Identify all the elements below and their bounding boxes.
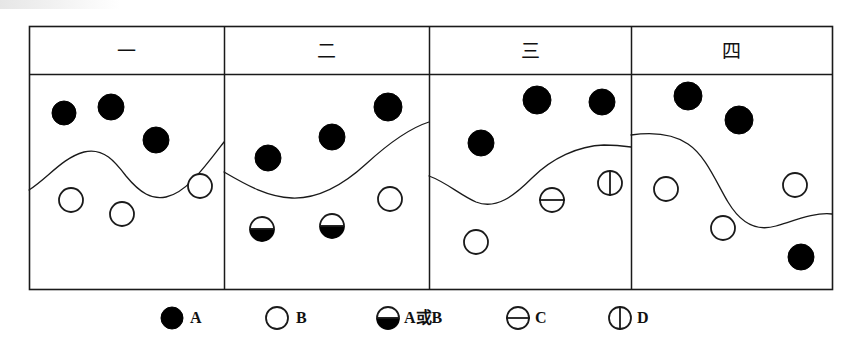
frame-outline: [30, 27, 833, 290]
symbol-A: [788, 244, 814, 270]
symbol-A: [674, 82, 702, 110]
symbol-A: [52, 101, 76, 125]
symbol-B: [464, 230, 488, 254]
panel-symbols: [52, 82, 814, 270]
symbol-B: [711, 216, 735, 240]
symbol-A: [523, 86, 551, 114]
legend-symbols: [161, 306, 631, 330]
symbol-A: [255, 145, 281, 171]
legend-item-b-symbol: [266, 307, 288, 329]
panel-header-4: 四: [722, 42, 741, 61]
legend-item-c-symbol: [506, 307, 530, 329]
panel-header-1: 一: [117, 42, 136, 61]
symbol-C: [539, 188, 565, 212]
symbol-A: [374, 93, 402, 121]
symbol-D: [598, 170, 622, 196]
symbol-B: [110, 202, 134, 226]
symbol-B: [59, 188, 83, 212]
symbol-B: [378, 187, 402, 211]
symbol-AB: [250, 217, 274, 241]
legend-item-a-label: A: [190, 310, 202, 326]
legend-item-ab-symbol: [377, 307, 399, 329]
symbol-A: [589, 89, 615, 115]
legend-item-ab-label: A或B: [404, 310, 442, 326]
symbol-B: [654, 177, 678, 201]
symbol-A: [98, 94, 124, 120]
legend-item-c-label: C: [535, 310, 547, 326]
panel-header-3: 三: [521, 42, 540, 61]
symbol-A: [468, 130, 494, 156]
legend-item-a-symbol: [161, 307, 183, 329]
panel-header-2: 二: [317, 42, 336, 61]
symbol-B: [188, 174, 212, 198]
symbol-A: [319, 124, 345, 150]
symbol-A: [725, 106, 753, 134]
symbol-AB: [320, 214, 344, 238]
symbol-B: [783, 173, 807, 197]
figure-root: 一二三四 ABA或BCD: [0, 0, 853, 360]
symbol-A: [143, 127, 169, 153]
legend-item-b-label: B: [296, 310, 307, 326]
table-frame: [30, 27, 833, 290]
legend-item-d-symbol: [609, 306, 631, 330]
legend-item-d-label: D: [637, 310, 649, 326]
